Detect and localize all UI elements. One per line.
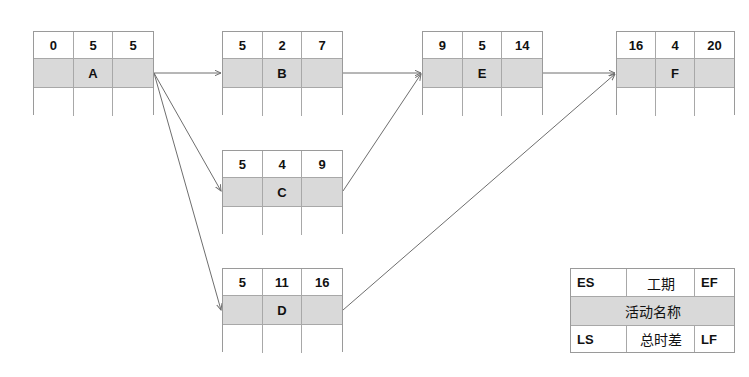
node-a-name: A <box>74 59 114 88</box>
arrow-c-to-e <box>343 74 421 191</box>
node-d-lf <box>302 325 342 353</box>
node-f-es: 16 <box>617 32 656 59</box>
node-d-name-right <box>302 296 342 325</box>
node-a-ls <box>34 88 74 116</box>
node-a: 0 5 5 A <box>33 31 154 115</box>
node-a-name-left <box>34 59 74 88</box>
node-c-es: 5 <box>223 151 263 178</box>
legend-total-float: 总时差 <box>627 326 695 352</box>
node-d-ef: 16 <box>302 269 342 296</box>
node-e-name-left <box>423 59 463 88</box>
node-b: 5 2 7 B <box>222 31 343 115</box>
node-c-ls <box>223 207 263 235</box>
legend-ls: LS <box>571 326 627 352</box>
node-b-name-right <box>302 59 342 88</box>
node-f-duration: 4 <box>656 32 695 59</box>
node-c-float <box>263 207 303 235</box>
node-b-ls <box>223 88 263 116</box>
node-e-ls <box>423 88 463 116</box>
legend-lf: LF <box>695 326 734 352</box>
node-d-name: D <box>263 296 303 325</box>
node-b-ef: 7 <box>302 32 342 59</box>
node-e-es: 9 <box>423 32 463 59</box>
node-d-es: 5 <box>223 269 263 296</box>
legend-key: ES 工期 EF 活动名称 LS 总时差 LF <box>570 268 735 353</box>
node-d-float <box>263 325 303 353</box>
node-b-name: B <box>263 59 303 88</box>
node-c: 5 4 9 C <box>222 150 343 234</box>
node-c-name-right <box>302 178 342 207</box>
node-b-duration: 2 <box>263 32 303 59</box>
node-b-es: 5 <box>223 32 263 59</box>
node-c-duration: 4 <box>263 151 303 178</box>
node-f-float <box>656 88 695 116</box>
node-c-lf <box>302 207 342 235</box>
node-c-name: C <box>263 178 303 207</box>
node-b-float <box>263 88 303 116</box>
node-b-lf <box>302 88 342 116</box>
node-d: 5 11 16 D <box>222 268 343 352</box>
node-d-duration: 11 <box>263 269 303 296</box>
node-d-name-left <box>223 296 263 325</box>
node-b-name-left <box>223 59 263 88</box>
node-a-duration: 5 <box>74 32 114 59</box>
node-a-es: 0 <box>34 32 74 59</box>
node-f-ef: 20 <box>695 32 734 59</box>
legend-ef: EF <box>695 269 734 297</box>
legend-duration: 工期 <box>627 269 695 297</box>
node-a-lf <box>113 88 153 116</box>
node-e: 9 5 14 E <box>422 31 543 115</box>
arrow-a-to-c <box>154 73 221 191</box>
arrow-a-to-d <box>154 73 221 310</box>
node-f-name-right <box>695 59 734 88</box>
node-f-name: F <box>656 59 695 88</box>
node-c-ef: 9 <box>302 151 342 178</box>
node-a-ef: 5 <box>113 32 153 59</box>
legend-activity-name: 活动名称 <box>571 297 734 326</box>
node-f: 16 4 20 F <box>616 31 735 115</box>
node-d-ls <box>223 325 263 353</box>
node-e-name: E <box>463 59 503 88</box>
node-e-ef: 14 <box>502 32 542 59</box>
node-e-float <box>463 88 503 116</box>
legend-es: ES <box>571 269 627 297</box>
node-a-name-right <box>113 59 153 88</box>
node-e-lf <box>502 88 542 116</box>
network-diagram: 0 5 5 A 5 2 7 B 5 4 9 C 5 11 16 <box>0 0 749 377</box>
node-f-name-left <box>617 59 656 88</box>
node-f-ls <box>617 88 656 116</box>
node-e-name-right <box>502 59 542 88</box>
node-c-name-left <box>223 178 263 207</box>
node-f-lf <box>695 88 734 116</box>
node-e-duration: 5 <box>463 32 503 59</box>
node-a-float <box>74 88 114 116</box>
